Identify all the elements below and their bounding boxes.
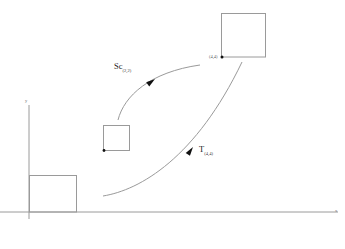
translate-map-label: T(4,4) <box>199 145 213 156</box>
translate-arrow-curve <box>103 62 242 196</box>
scale-map-label-text: Sc <box>114 61 123 71</box>
middle-square-corner-dot <box>103 149 106 152</box>
scale-map-label-subscript: (2,2) <box>123 68 132 73</box>
scale-map-label: Sc(2,2) <box>114 62 131 73</box>
x-axis-label: x <box>335 209 337 214</box>
y-axis-label: y <box>25 99 27 104</box>
middle-square <box>104 126 130 151</box>
diagram-canvas: y x (4,4) Sc(2,2) T(4,4) <box>0 0 345 249</box>
large-square-corner-dot <box>221 56 224 59</box>
translate-map-label-subscript: (4,4) <box>204 151 213 156</box>
large-square <box>222 14 266 58</box>
origin-square <box>30 176 77 213</box>
diagram-svg <box>0 0 345 249</box>
translate-arrow-head <box>186 146 195 156</box>
large-square-coord-label: (4,4) <box>209 55 218 60</box>
